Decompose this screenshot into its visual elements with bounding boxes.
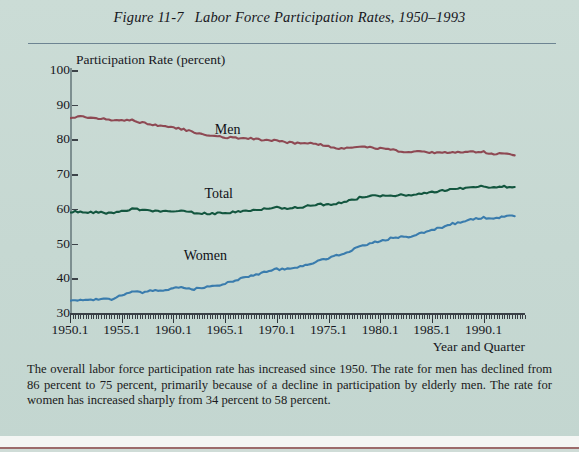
y-axis-title: Participation Rate (percent): [76, 52, 225, 68]
x-axis-minor-tick: [274, 315, 275, 319]
x-axis-minor-tick: [478, 315, 479, 319]
x-axis-minor-tick: [336, 315, 337, 319]
x-axis-minor-tick: [458, 315, 459, 319]
x-axis-tick-label: 1950.1: [51, 322, 88, 338]
x-axis-minor-tick: [117, 315, 118, 319]
x-axis-minor-tick: [453, 315, 454, 319]
y-axis-tick-label: 50: [34, 237, 70, 251]
x-axis-minor-tick: [347, 315, 348, 319]
x-axis-minor-tick: [194, 315, 195, 319]
y-axis-tick-label: 60: [34, 202, 70, 216]
x-axis-minor-tick: [135, 315, 136, 319]
x-axis-minor-tick: [73, 315, 74, 319]
x-axis-minor-tick: [455, 315, 456, 319]
x-axis-minor-tick: [491, 315, 492, 319]
x-axis-minor-tick: [184, 315, 185, 319]
x-axis-minor-tick: [233, 315, 234, 319]
x-axis-minor-tick: [393, 315, 394, 319]
series-line-women: [70, 215, 515, 300]
x-axis-minor-tick: [447, 315, 448, 319]
x-axis-minor-tick: [352, 315, 353, 319]
x-axis-minor-tick: [316, 315, 317, 319]
x-axis-minor-tick: [499, 315, 500, 319]
y-axis-tick-label: 80: [34, 132, 70, 146]
x-axis-minor-tick: [517, 315, 518, 319]
x-axis-tick-label: 1985.1: [413, 322, 450, 338]
y-axis-tick-mark: [72, 139, 78, 141]
x-axis-minor-tick: [471, 315, 472, 319]
x-axis-minor-tick: [254, 315, 255, 319]
x-axis-minor-tick: [497, 315, 498, 319]
x-axis-minor-tick: [403, 315, 404, 319]
x-axis-minor-tick: [181, 315, 182, 319]
x-axis-minor-tick: [215, 315, 216, 319]
x-axis-minor-tick: [504, 315, 505, 319]
x-axis-minor-tick: [435, 315, 436, 319]
x-axis-tick-label: 1975.1: [310, 322, 347, 338]
x-axis-minor-tick: [442, 315, 443, 319]
x-axis-minor-tick: [512, 315, 513, 319]
x-axis-minor-tick: [494, 315, 495, 319]
x-axis-minor-tick: [298, 315, 299, 319]
x-axis-minor-tick: [370, 315, 371, 319]
x-axis-minor-tick: [86, 315, 87, 319]
x-axis-minor-tick: [163, 315, 164, 319]
x-axis-minor-tick: [310, 315, 311, 319]
x-axis-minor-tick: [334, 315, 335, 319]
x-axis-minor-tick: [305, 315, 306, 319]
x-axis-minor-tick: [391, 315, 392, 319]
x-axis-minor-tick: [269, 315, 270, 319]
x-axis-minor-tick: [80, 315, 81, 319]
series-label-men: Men: [215, 122, 241, 138]
x-axis-minor-tick: [279, 315, 280, 319]
x-axis-minor-tick: [204, 315, 205, 319]
x-axis-minor-tick: [323, 315, 324, 319]
x-axis-minor-tick: [235, 315, 236, 319]
x-axis-minor-tick: [378, 315, 379, 319]
figure-caption: The overall labor force participation ra…: [27, 362, 552, 409]
x-axis-minor-tick: [486, 315, 487, 319]
x-axis-minor-tick: [515, 315, 516, 319]
x-axis-minor-tick: [481, 315, 482, 319]
x-axis-minor-tick: [409, 315, 410, 319]
x-axis-minor-tick: [96, 315, 97, 319]
x-axis-minor-tick: [308, 315, 309, 319]
x-axis-minor-tick: [179, 315, 180, 319]
x-axis-minor-tick: [153, 315, 154, 319]
x-axis-minor-tick: [292, 315, 293, 319]
x-axis-minor-tick: [450, 315, 451, 319]
x-axis-minor-tick: [246, 315, 247, 319]
x-axis-minor-tick: [468, 315, 469, 319]
x-axis-minor-tick: [199, 315, 200, 319]
x-axis-minor-tick: [440, 315, 441, 319]
x-axis-minor-tick: [109, 315, 110, 319]
x-axis-minor-tick: [83, 315, 84, 319]
x-axis-minor-tick: [145, 315, 146, 319]
y-axis-tick-label: 40: [34, 271, 70, 285]
x-axis-minor-tick: [502, 315, 503, 319]
x-axis-minor-tick: [142, 315, 143, 319]
x-axis-minor-tick: [385, 315, 386, 319]
x-axis-minor-tick: [148, 315, 149, 319]
y-axis-tick-label: 100: [34, 63, 70, 77]
x-axis-minor-tick: [241, 315, 242, 319]
y-axis-tick-mark: [72, 174, 78, 176]
x-axis-minor-tick: [509, 315, 510, 319]
x-axis-minor-tick: [360, 315, 361, 319]
series-label-total: Total: [204, 186, 233, 202]
x-axis-minor-tick: [210, 315, 211, 319]
x-axis-minor-tick: [522, 315, 523, 319]
x-axis-minor-tick: [137, 315, 138, 319]
x-axis-minor-tick: [176, 315, 177, 319]
x-axis-minor-tick: [520, 315, 521, 319]
x-axis-minor-tick: [98, 315, 99, 319]
x-axis-minor-tick: [445, 315, 446, 319]
x-axis-minor-tick: [424, 315, 425, 319]
x-axis-minor-tick: [354, 315, 355, 319]
x-axis-minor-tick: [285, 315, 286, 319]
x-axis-minor-tick: [158, 315, 159, 319]
y-axis-tick-mark: [72, 244, 78, 246]
x-axis-minor-tick: [166, 315, 167, 319]
x-axis-minor-tick: [463, 315, 464, 319]
x-axis-minor-tick: [259, 315, 260, 319]
